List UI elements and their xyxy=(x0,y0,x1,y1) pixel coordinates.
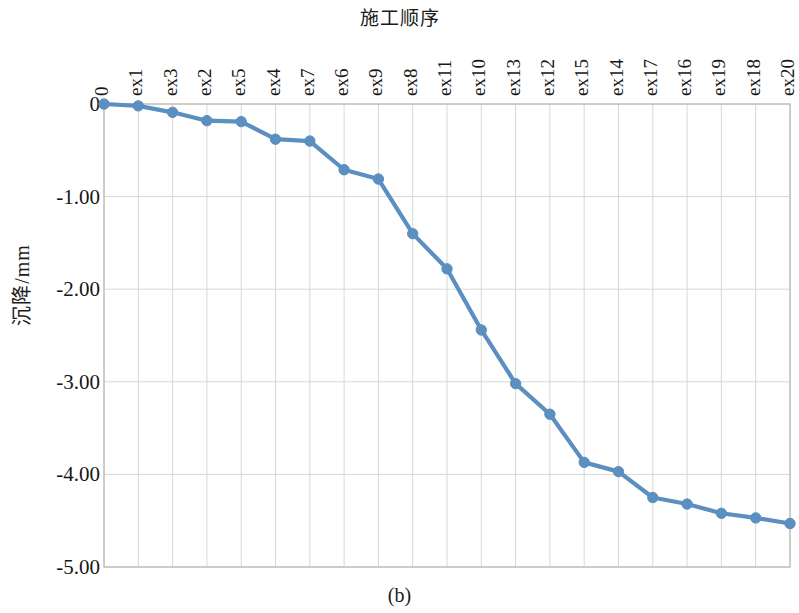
data-point-ex19 xyxy=(716,508,726,518)
figure-caption: (b) xyxy=(0,584,799,607)
data-point-ex9 xyxy=(373,174,383,184)
data-point-ex10 xyxy=(476,325,486,335)
data-point-ex7 xyxy=(305,136,315,146)
grid-lines xyxy=(104,104,790,567)
data-point-ex17 xyxy=(648,492,658,502)
data-point-ex16 xyxy=(682,499,692,509)
data-point-ex4 xyxy=(270,134,280,144)
data-point-ex8 xyxy=(408,228,418,238)
data-point-ex12 xyxy=(545,409,555,419)
data-point-0 xyxy=(99,99,109,109)
data-point-ex14 xyxy=(613,466,623,476)
data-point-ex5 xyxy=(236,116,246,126)
data-point-ex20 xyxy=(785,518,795,528)
data-point-ex13 xyxy=(510,378,520,388)
data-point-ex3 xyxy=(167,107,177,117)
data-point-ex6 xyxy=(339,165,349,175)
plot-area xyxy=(0,0,799,613)
data-point-ex11 xyxy=(442,264,452,274)
data-point-ex15 xyxy=(579,457,589,467)
data-point-ex1 xyxy=(133,101,143,111)
data-point-ex18 xyxy=(751,513,761,523)
figure-container: 施工顺序 沉降/mm 0-1.00-2.00-3.00-4.00-5.00 0e… xyxy=(0,0,799,613)
data-point-ex2 xyxy=(202,115,212,125)
